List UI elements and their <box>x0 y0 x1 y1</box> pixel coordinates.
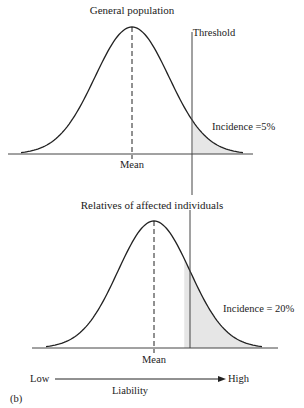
liability-axis: Low High Liability (b) <box>10 373 250 405</box>
title-general-population: General population <box>90 4 175 16</box>
liability-threshold-diagram: General population Threshold Mean Incide… <box>0 0 304 408</box>
low-label: Low <box>30 373 50 384</box>
threshold-label: Threshold <box>193 27 236 38</box>
incidence-annotation: Incidence =5% <box>212 121 276 132</box>
title-relatives: Relatives of affected individuals <box>81 199 223 211</box>
panel-general-population: General population Threshold Mean Incide… <box>8 4 276 195</box>
panel-label: (b) <box>10 393 23 405</box>
mean-label: Mean <box>142 354 167 365</box>
panel-relatives: Relatives of affected individuals Mean I… <box>32 199 294 365</box>
liability-label: Liability <box>112 385 149 396</box>
incidence-annotation: Incidence = 20% <box>223 303 294 314</box>
arrow-head-icon <box>218 376 226 382</box>
high-label: High <box>228 373 250 384</box>
mean-label: Mean <box>120 159 145 170</box>
